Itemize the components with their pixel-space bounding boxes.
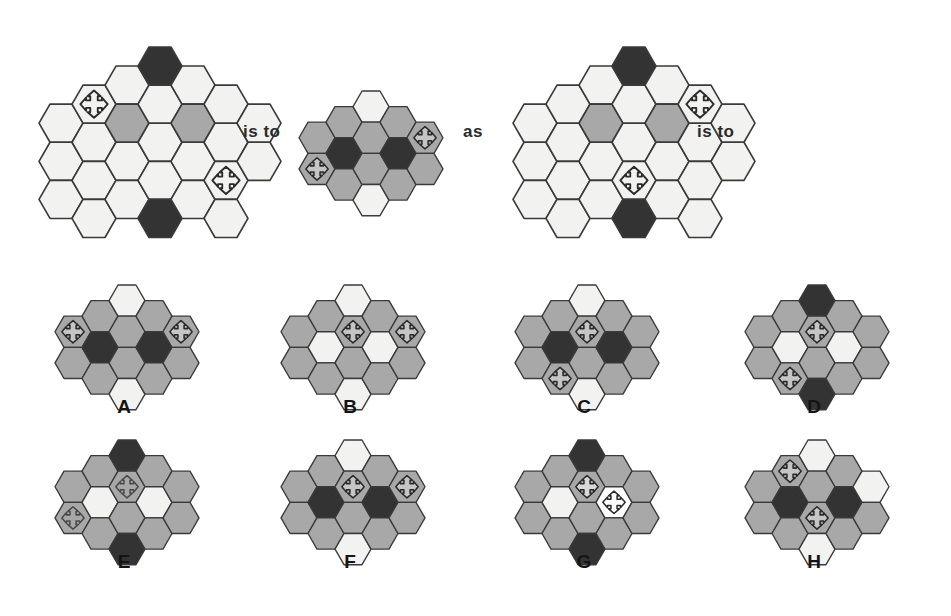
option-d[interactable] [742, 282, 892, 413]
relation-2: as [463, 122, 483, 142]
option-f[interactable] [278, 437, 428, 568]
option-h[interactable] [742, 437, 892, 568]
analogy-puzzle-stage: is toasis to ABCDEFGH [0, 0, 951, 616]
relation-1: is to [243, 122, 280, 142]
option-label-d[interactable]: D [794, 396, 834, 418]
option-b[interactable] [278, 282, 428, 413]
stimulus-3 [510, 44, 758, 241]
option-label-h[interactable]: H [794, 551, 834, 573]
option-label-a[interactable]: A [104, 396, 144, 418]
stimulus-2 [296, 88, 446, 219]
option-label-c[interactable]: C [564, 396, 604, 418]
stimulus-1 [36, 44, 284, 241]
option-label-g[interactable]: G [564, 551, 604, 573]
option-label-f[interactable]: F [330, 551, 370, 573]
option-g[interactable] [512, 437, 662, 568]
option-a[interactable] [52, 282, 202, 413]
relation-3: is to [697, 122, 734, 142]
option-c[interactable] [512, 282, 662, 413]
option-label-e[interactable]: E [104, 551, 144, 573]
option-label-b[interactable]: B [330, 396, 370, 418]
option-e[interactable] [52, 437, 202, 568]
